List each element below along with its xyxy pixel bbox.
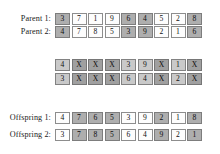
gene-cell: 3 [121,26,136,38]
gene-cell: 9 [138,26,153,38]
chromosome-row-parent-1: Parent 1:371964528 [0,13,220,25]
gene-cell: 9 [154,129,169,141]
gene-cells-parent-1: 371964528 [55,13,202,25]
gene-cell: 3 [55,73,70,85]
gene-cell: 7 [72,112,87,124]
gene-cell: X [187,59,202,71]
gene-cell: X [105,73,120,85]
gene-cells-parent-2: 478539216 [55,26,202,38]
chromosome-row-parent-2: Parent 2:478539216 [0,26,220,38]
gene-cell: 2 [154,26,169,38]
row-label-offspring-1: Offspring 1: [0,112,55,124]
gene-cells-offspring-2: 378564921 [55,129,202,141]
gene-cell: X [72,59,87,71]
gene-cell: X [88,73,103,85]
row-label-parent-2: Parent 2: [0,26,55,38]
gene-cell: 6 [88,112,103,124]
chromosome-row-intermediate-2: 3XXX64X2X [0,73,220,85]
gene-cell: 8 [88,129,103,141]
gene-cell: 1 [171,26,186,38]
gene-cell: 6 [187,26,202,38]
gene-cell: 9 [138,59,153,71]
chromosome-row-intermediate-1: 4XXX39X1X [0,59,220,71]
gene-cell: 1 [171,59,186,71]
gene-cell: X [88,59,103,71]
gene-cell: 7 [72,129,87,141]
gene-cell: X [105,59,120,71]
gene-cell: 8 [187,13,202,25]
gene-cell: 8 [187,112,202,124]
gene-cell: X [154,59,169,71]
row-label-parent-1: Parent 1: [0,13,55,25]
gene-cell: 3 [121,59,136,71]
gene-cell: 2 [171,73,186,85]
row-label-offspring-2: Offspring 2: [0,129,55,141]
gene-cell: 8 [88,26,103,38]
gene-cell: X [154,73,169,85]
gene-cell: 5 [154,13,169,25]
gene-cell: 6 [121,13,136,25]
gene-cell: 9 [105,13,120,25]
gene-cell: 5 [105,26,120,38]
gene-cells-intermediate-1: 4XXX39X1X [55,59,202,71]
gene-cell: 4 [55,59,70,71]
gene-cell: 6 [121,73,136,85]
gene-cells-offspring-1: 476539218 [55,112,202,124]
gene-cell: 1 [187,129,202,141]
gene-cell: 7 [72,26,87,38]
gene-cell: 6 [121,129,136,141]
gene-cell: 4 [138,73,153,85]
gene-cell: 4 [55,26,70,38]
gene-cell: 5 [105,129,120,141]
gene-cell: 3 [55,13,70,25]
gene-cell: 1 [88,13,103,25]
gene-cell: 7 [72,13,87,25]
crossover-diagram: Parent 1:371964528Parent 2:4785392164XXX… [0,0,220,154]
chromosome-row-offspring-1: Offspring 1:476539218 [0,112,220,124]
chromosome-row-offspring-2: Offspring 2:378564921 [0,129,220,141]
gene-cell: 3 [121,112,136,124]
gene-cell: 4 [138,13,153,25]
gene-cell: 1 [171,112,186,124]
gene-cell: X [72,73,87,85]
gene-cell: 4 [138,129,153,141]
gene-cell: 2 [154,112,169,124]
gene-cell: 5 [105,112,120,124]
gene-cell: 4 [55,112,70,124]
gene-cell: 9 [138,112,153,124]
gene-cell: 2 [171,13,186,25]
gene-cell: X [187,73,202,85]
gene-cell: 3 [55,129,70,141]
gene-cell: 2 [171,129,186,141]
gene-cells-intermediate-2: 3XXX64X2X [55,73,202,85]
